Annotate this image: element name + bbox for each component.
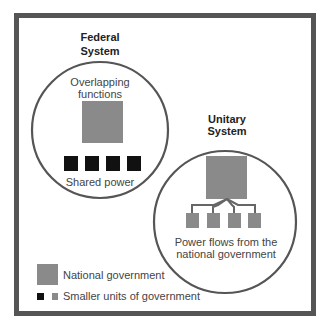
legend-national-swatch xyxy=(37,264,58,285)
legend-national-label: National government xyxy=(63,269,165,281)
unitary-title-line1: Unitary xyxy=(187,113,267,125)
unitary-unit-squares xyxy=(186,213,261,228)
federal-unit-square xyxy=(85,156,99,171)
federal-national-square xyxy=(82,101,123,143)
legend-unitary-unit-swatch xyxy=(52,293,58,300)
federal-top-caption-line1: Overlapping xyxy=(55,76,145,88)
federal-bottom-caption: Shared power xyxy=(55,176,145,188)
unitary-title-line2: System xyxy=(187,125,267,137)
federal-title: Federal System xyxy=(60,31,140,57)
unitary-unit-square xyxy=(248,213,261,228)
power-flow-lines xyxy=(192,199,255,213)
federal-unit-square xyxy=(106,156,120,171)
federal-top-caption: Overlapping functions xyxy=(55,76,145,100)
legend-smaller-label: Smaller units of government xyxy=(63,290,200,302)
unitary-national-square xyxy=(206,156,247,199)
unitary-unit-square xyxy=(207,213,220,228)
unitary-title: Unitary System xyxy=(187,113,267,137)
diagram-graphics xyxy=(0,0,330,328)
legend-federal-unit-swatch xyxy=(37,293,44,300)
federal-top-caption-line2: functions xyxy=(55,88,145,100)
unitary-caption-line1: Power flows from the xyxy=(166,236,286,248)
unitary-unit-square xyxy=(228,213,241,228)
unitary-unit-square xyxy=(186,213,199,228)
unitary-caption: Power flows from the national government xyxy=(166,236,286,260)
unitary-caption-line2: national government xyxy=(166,248,286,260)
federal-title-line1: Federal xyxy=(60,31,140,43)
federal-unit-square xyxy=(127,156,141,171)
federal-unit-squares xyxy=(64,156,141,171)
federal-unit-square xyxy=(64,156,78,171)
federal-title-line2: System xyxy=(60,45,140,57)
